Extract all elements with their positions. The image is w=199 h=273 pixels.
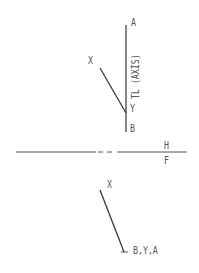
label-y-top: Y	[130, 103, 135, 114]
label-x-top: X	[88, 55, 93, 66]
label-b-top: B	[130, 123, 135, 134]
label-byа-front: B,Y,A	[133, 245, 158, 256]
line-xy-front	[100, 190, 124, 252]
line-xy-top	[100, 68, 126, 113]
label-x-front: X	[107, 179, 112, 190]
label-fold-f: F	[164, 155, 169, 166]
label-fold-h: H	[164, 140, 169, 151]
label-tl-axis: TL (AXIS)	[130, 54, 141, 99]
projection-drawing	[0, 0, 199, 273]
label-a: A	[131, 17, 136, 28]
